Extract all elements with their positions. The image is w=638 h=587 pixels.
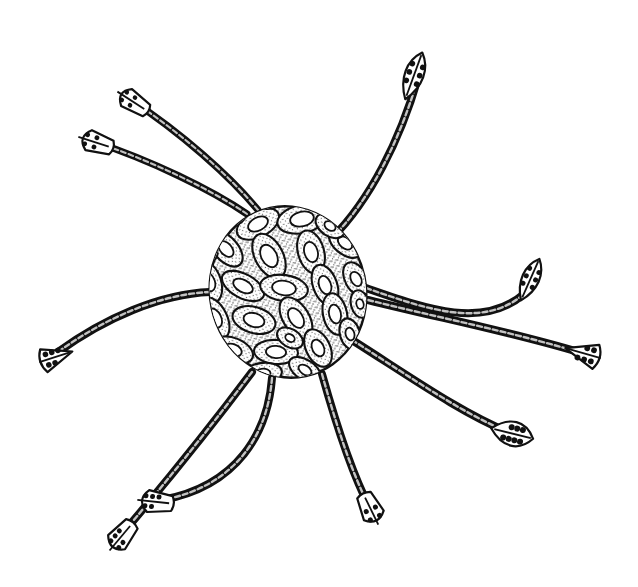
microorganism-illustration <box>0 0 638 587</box>
pore-opening <box>265 345 286 359</box>
figure-canvas <box>0 0 638 587</box>
